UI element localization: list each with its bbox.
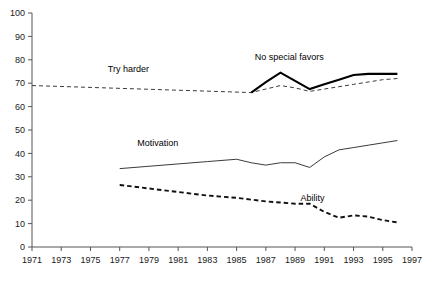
y-tick-label: 20 xyxy=(15,195,25,205)
line-chart: 0102030405060708090100 19711973197519771… xyxy=(0,0,430,281)
series-labels: Try harderNo special favorsMotivationAbi… xyxy=(108,52,325,204)
y-tick-label: 60 xyxy=(15,102,25,112)
y-tick-label: 70 xyxy=(15,78,25,88)
x-tick-label: 1987 xyxy=(256,255,276,265)
x-tick-label: 1983 xyxy=(197,255,217,265)
x-tick-label: 1995 xyxy=(373,255,393,265)
y-tick-label: 80 xyxy=(15,55,25,65)
series-line-try-harder xyxy=(32,79,397,93)
series-label-motivation: Motivation xyxy=(137,138,178,148)
x-tick-label: 1973 xyxy=(51,255,71,265)
x-tick-label: 1975 xyxy=(80,255,100,265)
x-tick-label: 1989 xyxy=(285,255,305,265)
x-tick-label: 1993 xyxy=(344,255,364,265)
x-tick-label: 1997 xyxy=(402,255,422,265)
series-line-no-special-favors xyxy=(251,73,397,93)
y-tick-label: 100 xyxy=(10,8,25,18)
y-axis: 0102030405060708090100 xyxy=(10,8,32,252)
y-tick-label: 30 xyxy=(15,172,25,182)
x-tick-label: 1981 xyxy=(168,255,188,265)
x-tick-label: 1977 xyxy=(110,255,130,265)
y-tick-label: 40 xyxy=(15,149,25,159)
series-label-try-harder: Try harder xyxy=(108,64,149,74)
y-tick-label: 90 xyxy=(15,32,25,42)
x-tick-label: 1991 xyxy=(314,255,334,265)
y-tick-label: 0 xyxy=(20,242,25,252)
x-tick-label: 1979 xyxy=(139,255,159,265)
y-tick-label: 10 xyxy=(15,219,25,229)
y-tick-label: 50 xyxy=(15,125,25,135)
x-tick-label: 1985 xyxy=(227,255,247,265)
x-axis: 1971197319751977197919811983198519871989… xyxy=(22,247,422,265)
series-label-ability: Ability xyxy=(301,193,326,203)
series-lines xyxy=(32,73,397,223)
series-label-no-special-favors: No special favors xyxy=(255,52,325,62)
chart-canvas: 0102030405060708090100 19711973197519771… xyxy=(0,0,430,281)
series-line-ability xyxy=(120,185,398,222)
x-tick-label: 1971 xyxy=(22,255,42,265)
